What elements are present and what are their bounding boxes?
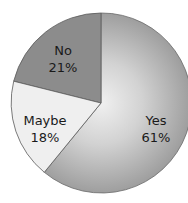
pie-chart: No 21% Maybe 18% Yes 61% <box>0 0 188 203</box>
label-no: No <box>54 43 72 58</box>
value-maybe: 18% <box>31 130 60 145</box>
label-yes: Yes <box>145 113 167 128</box>
value-yes: 61% <box>142 130 171 145</box>
value-no: 21% <box>49 60 78 75</box>
label-maybe: Maybe <box>23 113 66 128</box>
